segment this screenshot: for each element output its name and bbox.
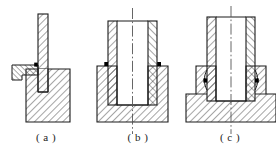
panel-c-tube-right-wall — [246, 17, 255, 101]
figure-root: ( a ) ( b ) ( c ) — [0, 0, 276, 161]
panel-a-group — [12, 14, 70, 122]
panel-a-contact-marker — [34, 63, 38, 67]
caption-b: ( b ) — [92, 131, 184, 143]
caption-a: ( a ) — [0, 131, 92, 143]
caption-row: ( a ) ( b ) ( c ) — [0, 126, 276, 148]
panel-b-tube-right-wall — [148, 21, 157, 105]
panel-b-contact-marker-left — [104, 62, 108, 66]
panel-a-vertical-rod — [38, 14, 48, 92]
caption-c: ( c ) — [184, 131, 276, 143]
panel-b-group — [97, 8, 168, 134]
panel-b-contact-marker-right — [157, 62, 161, 66]
panel-c-contact-marker-right — [255, 78, 259, 82]
panel-c-tube-left-wall — [207, 17, 216, 101]
panel-c-contact-marker-left — [203, 78, 207, 82]
panel-c-group — [186, 6, 276, 134]
panel-b-tube-left-wall — [108, 21, 117, 105]
